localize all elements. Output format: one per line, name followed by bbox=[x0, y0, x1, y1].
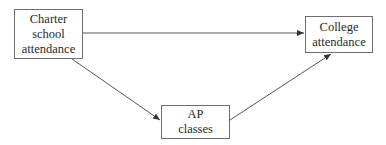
edge-charter-to-ap bbox=[72, 59, 160, 120]
node-ap-classes: AP classes bbox=[161, 105, 230, 139]
path-diagram: Charter school attendance College attend… bbox=[0, 0, 386, 145]
node-charter-school-attendance: Charter school attendance bbox=[14, 9, 83, 59]
node-college-attendance: College attendance bbox=[305, 16, 373, 53]
edge-ap-to-college bbox=[230, 54, 331, 120]
